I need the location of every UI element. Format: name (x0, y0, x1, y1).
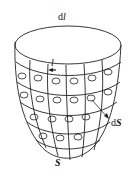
label-S: S (55, 158, 61, 168)
boundary-loop (15, 26, 121, 64)
circulation-loops (18, 69, 112, 141)
surface-diagram (0, 0, 135, 173)
label-dl: dl (58, 12, 66, 22)
surface-outline (15, 42, 121, 158)
label-dS: dS (111, 118, 122, 128)
label-l: l (51, 58, 54, 68)
